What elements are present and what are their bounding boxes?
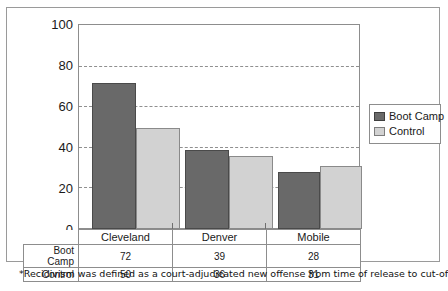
legend-item-control: Control [374, 124, 436, 139]
chart-legend: Boot Camp Control [369, 104, 441, 144]
bar-denver-boot-camp [185, 150, 229, 229]
chart-region: 100 80 60 40 20 0 [78, 24, 360, 229]
plot-area [78, 24, 360, 229]
bar-cleveland-control [136, 128, 180, 230]
bar-denver-control [229, 156, 273, 229]
bar-cleveland-boot-camp [92, 83, 136, 229]
y-tick-60-label: 60 [59, 99, 73, 114]
table-cell-boot-denver: 39 [173, 245, 267, 268]
table-cell-boot-mobile: 28 [267, 245, 361, 268]
y-tick-100-label: 100 [51, 17, 73, 32]
table-header-cleveland: Cleveland [79, 230, 173, 245]
y-tick-80-label: 80 [59, 58, 73, 73]
table-header-denver: Denver [173, 230, 267, 245]
table-corner-cell [24, 230, 79, 245]
table-row-boot-camp: Boot Camp 72 39 28 [24, 245, 361, 268]
legend-swatch-control-icon [374, 127, 385, 136]
y-tick-20: 20 [13, 182, 73, 195]
y-tick-40-label: 40 [59, 140, 73, 155]
legend-swatch-boot-camp-icon [374, 112, 385, 121]
y-tick-60: 60 [13, 100, 73, 113]
legend-item-boot-camp: Boot Camp [374, 109, 436, 124]
y-tick-20-label: 20 [59, 181, 73, 196]
bars-layer [80, 26, 360, 229]
bar-mobile-boot-camp [278, 172, 320, 229]
y-tick-80: 80 [13, 59, 73, 72]
table-cell-boot-cleveland: 72 [79, 245, 173, 268]
table-header-mobile: Mobile [267, 230, 361, 245]
bar-mobile-control [320, 166, 362, 229]
y-tick-100: 100 [13, 18, 73, 31]
legend-label-boot-camp: Boot Camp [389, 111, 444, 122]
figure-frame: 100 80 60 40 20 0 Boot Camp Control [6, 7, 440, 262]
legend-label-control: Control [389, 126, 424, 137]
table-row-categories: Cleveland Denver Mobile [24, 230, 361, 245]
table-row-label-boot-camp: Boot Camp [24, 245, 79, 268]
y-tick-40: 40 [13, 141, 73, 154]
figure-footnote: *Recidivism was defined as a court-adjud… [19, 268, 439, 280]
